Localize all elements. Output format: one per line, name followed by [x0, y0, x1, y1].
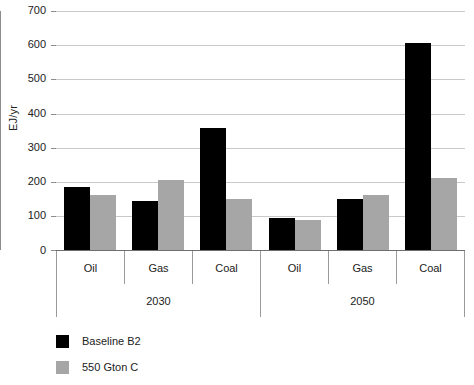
bar-oil-2050-550-gton-c — [295, 220, 321, 250]
gridline — [56, 11, 465, 12]
y-tick-label: 500 — [8, 73, 46, 84]
x-axis-group-row: 2030 2050 — [56, 284, 465, 317]
y-tick-label: 700 — [8, 5, 46, 16]
x-category-oil-2030: Oil — [56, 251, 124, 284]
bar-coal-2050-550-gton-c — [431, 178, 457, 250]
y-tick-label: 100 — [8, 210, 46, 221]
legend-label: Baseline B2 — [82, 335, 141, 347]
plot-area — [56, 11, 465, 250]
y-axis-tick-labels: 700 600 500 400 300 200 100 0 — [0, 0, 46, 385]
y-tick-label: 200 — [8, 176, 46, 187]
legend-swatch-icon — [56, 335, 69, 348]
legend-swatch-icon — [56, 361, 69, 374]
x-axis: Oil Gas Coal Oil Gas Coal 2030 2050 — [56, 251, 465, 317]
y-axis-line — [0, 11, 1, 250]
bar-gas-2030-550-gton-c — [158, 180, 184, 250]
bar-chart: EJ/yr 700 600 500 400 300 200 100 0 Oil … — [0, 0, 474, 385]
x-category-gas-2030: Gas — [124, 251, 192, 284]
y-tick-label: 300 — [8, 142, 46, 153]
x-category-gas-2050: Gas — [328, 251, 396, 284]
legend-item-550-gton-c: 550 Gton C — [56, 354, 141, 380]
x-group-2050: 2050 — [260, 284, 465, 317]
bar-gas-2050-baseline-b2 — [337, 199, 363, 250]
bar-oil-2030-baseline-b2 — [64, 187, 90, 250]
x-group-2030: 2030 — [56, 284, 260, 317]
x-axis-category-row: Oil Gas Coal Oil Gas Coal — [56, 251, 465, 284]
x-category-oil-2050: Oil — [260, 251, 328, 284]
y-tick-label: 400 — [8, 108, 46, 119]
x-category-coal-2030: Coal — [192, 251, 260, 284]
x-category-coal-2050: Coal — [396, 251, 465, 284]
legend-item-baseline-b2: Baseline B2 — [56, 328, 141, 354]
bar-gas-2050-550-gton-c — [363, 195, 389, 250]
bar-gas-2030-baseline-b2 — [132, 201, 158, 251]
bar-coal-2030-baseline-b2 — [200, 128, 226, 250]
chart-legend: Baseline B2 550 Gton C — [56, 328, 141, 380]
gridline — [56, 114, 465, 115]
bar-coal-2050-baseline-b2 — [405, 43, 431, 250]
bar-oil-2030-550-gton-c — [90, 195, 116, 250]
gridline — [56, 216, 465, 217]
gridline — [56, 79, 465, 80]
gridline — [56, 148, 465, 149]
gridline — [56, 45, 465, 46]
bar-coal-2030-550-gton-c — [226, 199, 252, 250]
bar-oil-2050-baseline-b2 — [269, 218, 295, 250]
y-tick-label: 0 — [8, 245, 46, 256]
legend-label: 550 Gton C — [82, 361, 138, 373]
gridline — [56, 182, 465, 183]
y-tick-label: 600 — [8, 39, 46, 50]
